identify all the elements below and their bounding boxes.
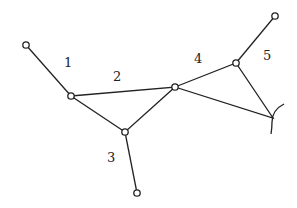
edge-label-4: 4 [194,51,202,66]
edge-3-line [125,132,137,193]
node-f [233,60,239,66]
hyperedge-2-triangle [71,87,175,132]
edge-1-line [26,45,71,96]
node-g [272,13,278,19]
node-d [134,190,140,196]
edge-label-1: 1 [64,55,72,70]
hypergraph-diagram: 1 2 3 4 5 [0,0,297,208]
edge-label-3: 3 [107,150,115,165]
hyperedge-4-triangle [175,63,273,118]
node-c [122,129,128,135]
node-b [68,93,74,99]
edge-label-5: 5 [263,48,271,63]
edge-label-2: 2 [113,69,121,84]
node-a [23,42,29,48]
open-end-arc [271,104,284,134]
node-e [172,84,178,90]
